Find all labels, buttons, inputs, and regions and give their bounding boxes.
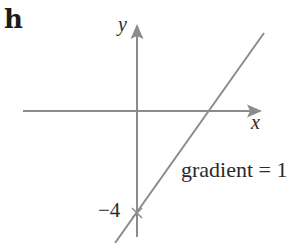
part-label: h: [4, 6, 23, 32]
x-axis-label: x: [251, 112, 260, 132]
y-intercept-label: −4: [98, 200, 120, 221]
y-axis-label: y: [118, 14, 127, 34]
gradient-annotation: gradient = 1: [181, 159, 288, 181]
